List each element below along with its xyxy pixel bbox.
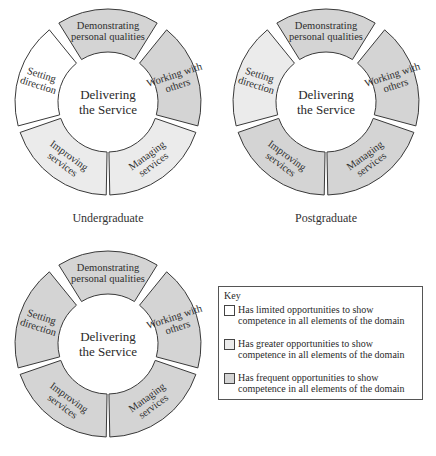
segment-label-demonstrating: Demonstratingpersonal qualities [289,20,363,42]
svg-text:personal qualities: personal qualities [71,273,145,284]
key-title: Key [224,290,417,302]
center-label: Delivering [298,87,354,102]
key-item-frequent: Has frequent opportunities to show compe… [224,372,417,395]
svg-text:personal qualities: personal qualities [71,31,145,42]
wheel-caption-postgraduate: Postgraduate [226,211,426,226]
key-box: Key Has limited opportunities to show co… [218,286,423,400]
svg-text:Demonstrating: Demonstrating [295,20,358,31]
wheel-caption-undergraduate: Undergraduate [8,211,208,226]
wheel-postgraduate: Demonstratingpersonal qualitiesWorking w… [226,2,426,202]
key-item-text: Has limited opportunities to show compet… [238,304,417,327]
center-label: the Service [297,102,355,117]
swatch-frequent-icon [224,373,235,384]
wheel-undergraduate: Demonstratingpersonal qualitiesWorking w… [8,2,208,202]
center-label: the Service [79,344,137,359]
wheel-svg: Demonstratingpersonal qualitiesWorking w… [226,2,426,202]
svg-text:Demonstrating: Demonstrating [77,262,140,273]
key-item-text: Has frequent opportunities to show compe… [238,372,417,395]
center-label: the Service [79,102,137,117]
center-label: Delivering [80,329,136,344]
key-item-greater: Has greater opportunities to show compet… [224,338,417,361]
wheel-svg: Demonstratingpersonal qualitiesWorking w… [8,2,208,202]
segment-label-demonstrating: Demonstratingpersonal qualities [71,262,145,284]
wheel-svg: Demonstratingpersonal qualitiesWorking w… [8,244,208,444]
swatch-limited-icon [224,305,235,316]
swatch-greater-icon [224,339,235,350]
svg-text:personal qualities: personal qualities [289,31,363,42]
segment-label-demonstrating: Demonstratingpersonal qualities [71,20,145,42]
wheel-third: Demonstratingpersonal qualitiesWorking w… [8,244,208,444]
key-item-limited: Has limited opportunities to show compet… [224,304,417,327]
center-label: Delivering [80,87,136,102]
key-item-text: Has greater opportunities to show compet… [238,338,417,361]
svg-text:Demonstrating: Demonstrating [77,20,140,31]
